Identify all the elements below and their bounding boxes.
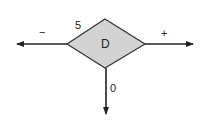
branch-label-left: − [39, 27, 45, 38]
node-label: D [101, 38, 110, 50]
branch-label-down: 0 [110, 83, 116, 94]
corner-label: 5 [75, 20, 81, 31]
decision-diagram [0, 0, 206, 127]
branch-label-right: + [161, 28, 167, 39]
